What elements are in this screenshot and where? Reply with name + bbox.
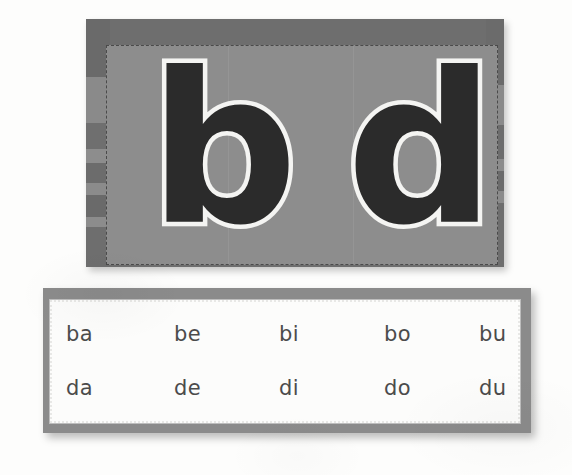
syllable-be: be: [174, 322, 279, 346]
syllable-grid: ba be bi bo bu da de di do du: [52, 302, 518, 421]
syllable-bi: bi: [279, 322, 384, 346]
syllable-bu: bu: [479, 322, 506, 346]
letter-glyph-d: d: [346, 69, 491, 231]
syllable-de: de: [174, 376, 279, 400]
syllable-do: do: [384, 376, 479, 400]
letters-row: b d: [107, 46, 497, 264]
syllable-di: di: [279, 376, 384, 400]
syllable-du: du: [479, 376, 506, 400]
letter-glyph-b: b: [149, 69, 294, 231]
syllable-card-inner-panel: ba be bi bo bu da de di do du: [50, 300, 520, 423]
letter-card-inner-panel: b d: [106, 45, 498, 265]
syllable-da: da: [66, 376, 174, 400]
syllable-row-b: ba be bi bo bu: [66, 322, 504, 346]
syllable-ba: ba: [66, 322, 174, 346]
letter-card: b d: [86, 19, 504, 267]
syllable-row-d: da de di do du: [66, 376, 504, 400]
syllable-bo: bo: [384, 322, 479, 346]
syllable-card: ba be bi bo bu da de di do du: [43, 288, 531, 433]
